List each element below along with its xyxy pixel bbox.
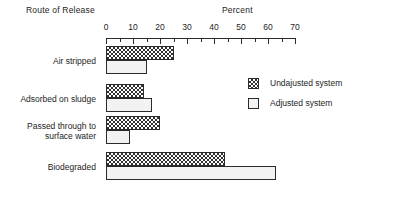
axis-tick-minor (201, 38, 202, 42)
bar (106, 46, 174, 60)
bar (106, 152, 225, 166)
axis-tick-major (214, 38, 215, 44)
category-axis-title: Route of Release (26, 5, 95, 15)
axis-tick-major (133, 38, 134, 44)
category-label-line: Biodegraded (48, 162, 96, 172)
category-label: Air stripped (53, 56, 96, 66)
axis-tick-minor (255, 38, 256, 42)
category-label-line: Air stripped (53, 56, 96, 66)
axis-tick-minor (174, 38, 175, 42)
category-label: Adsorbed on sludge (20, 94, 96, 104)
category-label: Passed through tosurface water (27, 121, 96, 141)
axis-tick-major (160, 38, 161, 44)
axis-tick-label: 0 (104, 22, 109, 32)
axis-tick-label: 50 (236, 22, 245, 32)
axis-tick-major (268, 38, 269, 44)
legend-label-adjusted: Adjusted system (270, 98, 332, 108)
axis-tick-major (106, 38, 107, 44)
bar (106, 166, 276, 180)
bar (106, 130, 130, 144)
bar (106, 116, 160, 130)
category-label-line: Passed through to (27, 121, 96, 131)
axis-tick-minor (282, 38, 283, 42)
axis-tick-label: 30 (182, 22, 191, 32)
axis-tick-major (295, 38, 296, 44)
axis-tick-minor (228, 38, 229, 42)
category-label: Biodegraded (48, 162, 96, 172)
axis-tick-label: 20 (155, 22, 164, 32)
axis-tick-label: 40 (209, 22, 218, 32)
legend-swatch-adjusted-icon (248, 98, 259, 109)
axis-tick-minor (120, 38, 121, 42)
bar-chart: Route of Release Percent 010203040506070… (0, 0, 400, 198)
value-axis-title: Percent (222, 5, 253, 15)
bar (106, 98, 152, 112)
axis-tick-major (241, 38, 242, 44)
category-label-line: surface water (45, 131, 96, 141)
category-label-line: Adsorbed on sludge (20, 94, 96, 104)
axis-tick-label: 60 (263, 22, 272, 32)
legend-swatch-unadjusted-icon (248, 78, 259, 89)
bar (106, 84, 144, 98)
axis-tick-label: 10 (128, 22, 137, 32)
bar (106, 60, 147, 74)
axis-tick-minor (147, 38, 148, 42)
legend-label-unadjusted: Undajusted system (270, 78, 342, 88)
axis-tick-label: 70 (290, 22, 299, 32)
axis-tick-major (187, 38, 188, 44)
